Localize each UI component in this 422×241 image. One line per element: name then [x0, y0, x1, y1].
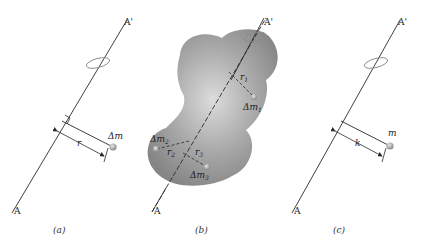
distance-label-r: r — [77, 138, 82, 148]
axis-top-label: A' — [123, 17, 133, 27]
radius-line — [341, 121, 390, 146]
extension-line — [382, 148, 386, 162]
axis-bottom-label: A — [13, 206, 21, 216]
rotation-axis — [12, 20, 127, 213]
caption-a: (a) — [53, 225, 66, 235]
radius-of-gyration-label-k: k — [355, 138, 360, 148]
mass-label: m — [388, 128, 397, 138]
axis-top-label: A' — [263, 17, 273, 27]
caption-b: (b) — [195, 225, 208, 235]
mass-element-dot-1 — [251, 94, 257, 100]
panel-a: r Δm A' A (a) — [12, 17, 133, 235]
panel-c: k m A' A (c) — [292, 17, 407, 235]
mass-element-dot — [109, 143, 116, 150]
mass-label: Δm — [107, 131, 123, 141]
moment-of-inertia-diagram: r Δm A' A (a) r1 Δm1 Δm2 r2 r3 Δm3 A' A … — [0, 0, 422, 241]
axis-bottom-label: A — [293, 206, 301, 216]
caption-c: (c) — [333, 225, 346, 235]
radius-line — [62, 121, 113, 147]
rotation-axis — [292, 20, 400, 213]
extension-line — [104, 148, 108, 162]
panel-b: r1 Δm1 Δm2 r2 r3 Δm3 A' A (b) — [148, 17, 278, 235]
axis-bottom-label: A — [153, 206, 161, 216]
axis-top-label: A' — [397, 17, 407, 27]
mass-dot — [386, 142, 393, 149]
mass-element-dot-2 — [153, 146, 159, 152]
